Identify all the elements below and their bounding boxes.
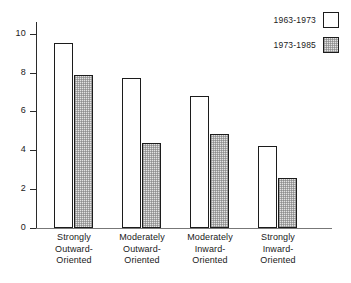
y-axis-tick-label: 4 [21,144,26,155]
category-label-line: Strongly [235,232,321,244]
x-axis-category-label: StronglyInward-Oriented [235,232,321,267]
bar-series-b [278,178,297,228]
bar-chart-figure: 1963-1973 1973-1985 0246810 StronglyOutw… [0,0,351,283]
x-axis-line [36,228,332,229]
category-label-line: Oriented [235,255,321,267]
y-axis-tick: 8 [30,73,36,74]
bar-series-a [122,78,141,228]
bar-series-b [210,134,229,228]
y-axis-tick: 2 [30,189,36,190]
category-label-line: Inward- [235,244,321,256]
y-axis-tick: 0 [30,228,36,229]
bar-series-a [258,146,277,228]
y-axis-tick-label: 6 [21,105,26,116]
plot-area: 0246810 StronglyOutward-OrientedModerate… [36,22,332,228]
bar-series-a [54,43,73,228]
y-axis-tick: 10 [30,34,36,35]
y-axis-tick: 6 [30,111,36,112]
y-axis-tick-label: 0 [21,222,26,233]
y-axis-tick: 4 [30,150,36,151]
y-axis-tick-label: 10 [16,28,26,39]
y-axis-tick-label: 8 [21,67,26,78]
bar-series-b [74,75,93,228]
bar-series-a [190,96,209,228]
bar-series-b [142,143,161,229]
y-axis-line [36,22,37,228]
y-axis-tick-label: 2 [21,183,26,194]
